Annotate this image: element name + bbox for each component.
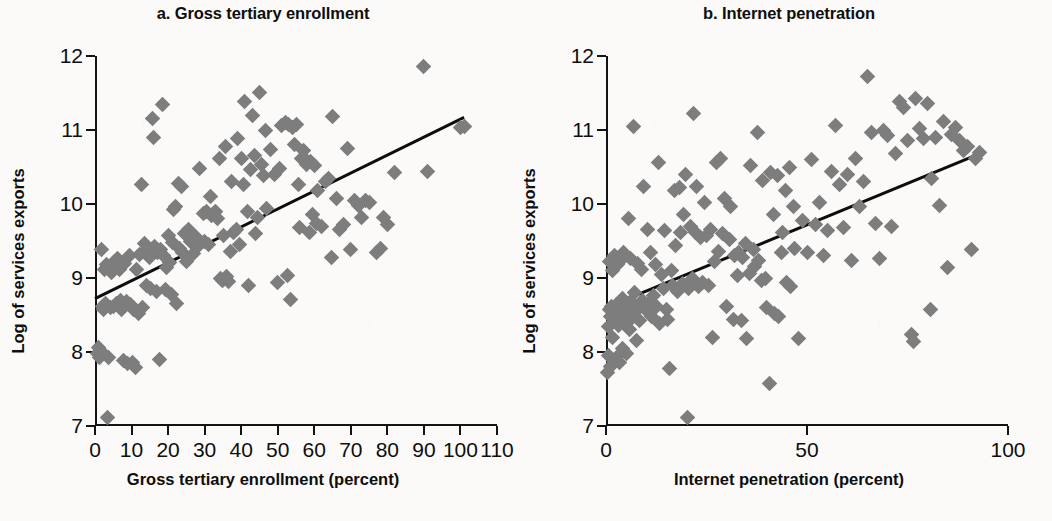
x-tick-label-0: 0: [600, 438, 612, 462]
data-point: [922, 301, 938, 317]
data-point: [657, 223, 673, 239]
y-tick-11: [597, 129, 606, 131]
x-tick-0: [605, 426, 607, 435]
y-tick-label-11: 11: [572, 118, 594, 142]
panel-a-x-axis-line: [95, 424, 497, 426]
panel-a-y-axis-line: [95, 56, 97, 426]
panel-b-plot-area: 789101112050100: [606, 56, 1008, 426]
data-point: [343, 242, 359, 258]
x-tick-label-30: 30: [193, 438, 216, 462]
data-point: [743, 158, 759, 174]
data-point: [420, 164, 436, 180]
y-tick-label-12: 12: [60, 44, 83, 68]
data-point: [620, 211, 636, 227]
data-point: [328, 190, 344, 206]
panel-a-plot-area: 7891011120102030405060708090100110: [95, 56, 497, 426]
x-tick-label-70: 70: [339, 438, 362, 462]
data-point: [154, 97, 170, 113]
y-tick-label-9: 9: [582, 266, 594, 290]
x-tick-60: [313, 426, 315, 435]
x-tick-30: [204, 426, 206, 435]
y-tick-label-10: 10: [571, 192, 594, 216]
data-point: [244, 108, 260, 124]
y-tick-12: [86, 55, 95, 57]
data-point: [146, 130, 162, 146]
data-point: [964, 242, 980, 258]
data-point: [851, 199, 867, 215]
x-tick-label-80: 80: [376, 438, 399, 462]
data-point: [855, 174, 871, 190]
data-point: [339, 141, 355, 157]
data-point: [749, 125, 765, 141]
data-point: [689, 178, 705, 194]
data-point: [626, 119, 642, 135]
x-tick-label-0: 0: [89, 438, 101, 462]
data-point: [668, 238, 684, 254]
data-point: [639, 221, 655, 237]
data-point: [133, 177, 149, 193]
x-tick-20: [167, 426, 169, 435]
data-point: [323, 249, 339, 265]
x-tick-50: [277, 426, 279, 435]
data-point: [827, 118, 843, 134]
y-tick-label-7: 7: [71, 414, 83, 438]
data-point: [884, 218, 900, 234]
data-point: [778, 183, 794, 199]
x-tick-label-110: 110: [480, 438, 513, 462]
y-tick-11: [86, 129, 95, 131]
y-tick-9: [86, 277, 95, 279]
x-tick-0: [94, 426, 96, 435]
data-point: [233, 150, 249, 166]
y-tick-10: [597, 203, 606, 205]
x-tick-label-90: 90: [412, 438, 435, 462]
data-point: [679, 409, 695, 425]
data-point: [928, 130, 944, 146]
data-point: [843, 252, 859, 268]
data-point: [650, 155, 666, 171]
y-tick-label-12: 12: [571, 44, 594, 68]
data-point: [872, 251, 888, 267]
data-point: [258, 122, 274, 138]
data-point: [662, 360, 678, 376]
data-point: [786, 199, 802, 215]
y-tick-10: [86, 203, 95, 205]
x-tick-50: [806, 426, 808, 435]
y-tick-label-7: 7: [582, 414, 594, 438]
data-point: [705, 329, 721, 345]
data-point: [868, 215, 884, 231]
data-point: [152, 352, 168, 368]
data-point: [697, 195, 713, 211]
y-tick-label-8: 8: [71, 340, 83, 364]
y-tick-label-11: 11: [61, 118, 83, 142]
x-tick-70: [350, 426, 352, 435]
panel-b-y-axis-title: Log of services exports: [520, 168, 539, 353]
x-tick-label-60: 60: [303, 438, 326, 462]
x-tick-label-100: 100: [443, 438, 478, 462]
data-point: [252, 84, 268, 100]
data-point: [283, 292, 299, 308]
data-point: [241, 278, 257, 294]
x-tick-10: [131, 426, 133, 435]
data-point: [290, 177, 306, 193]
data-point: [100, 409, 116, 425]
data-point: [192, 161, 208, 177]
y-tick-12: [597, 55, 606, 57]
y-tick-label-8: 8: [582, 340, 594, 364]
data-point: [765, 207, 781, 223]
panel-b-x-axis-title: Internet penetration (percent): [526, 470, 1052, 489]
data-point: [847, 150, 863, 166]
data-point: [416, 59, 432, 75]
data-point: [761, 375, 777, 391]
panel-a-title: a. Gross tertiary enrollment: [0, 4, 526, 23]
x-tick-label-50: 50: [266, 438, 289, 462]
data-point: [739, 331, 755, 347]
data-point: [237, 94, 253, 110]
x-tick-label-100: 100: [990, 438, 1025, 462]
x-tick-label-40: 40: [229, 438, 252, 462]
data-point: [940, 260, 956, 276]
data-point: [811, 195, 827, 211]
data-point: [823, 164, 839, 180]
x-tick-label-50: 50: [795, 438, 818, 462]
data-point: [803, 152, 819, 168]
data-point: [248, 226, 264, 242]
